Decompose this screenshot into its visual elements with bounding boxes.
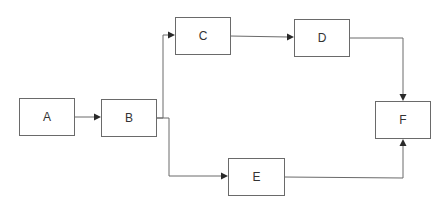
node-c: C bbox=[175, 17, 231, 55]
node-e-label: E bbox=[252, 170, 260, 184]
edge-e-f bbox=[284, 139, 407, 178]
node-f-label: F bbox=[399, 113, 406, 127]
edge-c-d bbox=[230, 34, 294, 41]
node-f: F bbox=[375, 101, 431, 139]
edge-b-e bbox=[156, 118, 228, 180]
edge-d-f bbox=[349, 38, 407, 101]
node-b: B bbox=[101, 99, 157, 137]
node-e: E bbox=[228, 158, 285, 196]
node-d: D bbox=[294, 19, 350, 57]
node-c-label: C bbox=[199, 29, 208, 43]
node-a: A bbox=[19, 98, 75, 136]
edge-b-c bbox=[156, 32, 175, 119]
node-a-label: A bbox=[43, 110, 51, 124]
node-d-label: D bbox=[318, 31, 327, 45]
node-b-label: B bbox=[125, 111, 133, 125]
edge-a-b bbox=[75, 114, 101, 121]
flowchart-diagram: A B C D E F bbox=[0, 0, 448, 209]
